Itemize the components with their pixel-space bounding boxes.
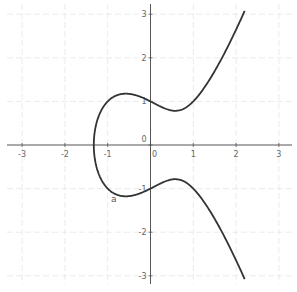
x-tick-label: 0	[152, 150, 157, 159]
x-tick-label: 2	[234, 150, 239, 159]
y-tick-label: 2	[141, 54, 146, 63]
graph-canvas[interactable]: -3-2-10123 -3-2-10123 a	[0, 0, 297, 292]
x-tick-label: -3	[18, 150, 26, 159]
x-tick-label: -1	[104, 150, 112, 159]
curve-label-a[interactable]: a	[111, 194, 117, 204]
grid-lines	[7, 4, 292, 284]
x-tick-label: 3	[276, 150, 281, 159]
axes	[7, 4, 292, 284]
y-tick-label: -3	[139, 272, 147, 281]
y-tick-label: 0	[141, 135, 146, 144]
y-tick-label: 3	[141, 10, 146, 19]
x-tick-label: -2	[61, 150, 69, 159]
y-tick-label: -2	[139, 228, 147, 237]
x-tick-label: 1	[191, 150, 196, 159]
